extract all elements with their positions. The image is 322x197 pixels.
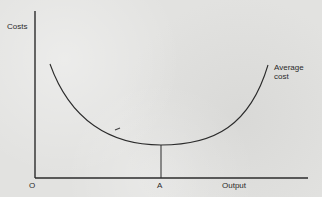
curve-label: Average cost [274,63,304,81]
diagram-canvas [0,0,322,197]
min-point-label: A [157,181,162,190]
y-axis-label: Costs [7,22,27,31]
curve-label-line1: Average [274,63,304,72]
stray-mark [115,128,120,130]
curve-label-line2: cost [274,72,304,81]
average-cost-curve [50,64,268,145]
cost-curve-diagram: Costs Average cost O A Output [0,0,322,197]
x-axis-label: Output [222,181,246,190]
origin-label: O [29,181,35,190]
